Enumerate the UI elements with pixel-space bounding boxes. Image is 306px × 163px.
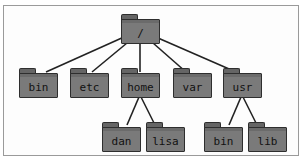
edge-usr-usr_lib: [243, 97, 257, 125]
folder-label: lisa: [152, 136, 179, 147]
edge-home-dan: [127, 97, 139, 125]
folder-label: var: [183, 82, 203, 93]
folder-label: lib: [258, 136, 278, 147]
folder-label: /: [137, 28, 144, 39]
folder-icon: etc: [70, 73, 109, 98]
folder-icon: dan: [102, 127, 141, 152]
folder-usr[interactable]: usr: [223, 68, 262, 98]
folder-label: bin: [29, 82, 49, 93]
folder-lisa[interactable]: lisa: [146, 122, 185, 152]
folder-usr_bin[interactable]: bin: [204, 122, 243, 152]
folder-label: dan: [112, 136, 132, 147]
folder-icon: var: [173, 73, 212, 98]
folder-icon: lib: [248, 127, 287, 152]
folder-label: home: [127, 82, 154, 93]
folder-root[interactable]: /: [121, 14, 160, 44]
folder-etc[interactable]: etc: [70, 68, 109, 98]
folder-var[interactable]: var: [173, 68, 212, 98]
folder-label: etc: [80, 82, 100, 93]
folder-label: bin: [214, 136, 234, 147]
folder-icon: bin: [19, 73, 58, 98]
edge-home-lisa: [141, 97, 155, 125]
folder-icon: usr: [223, 73, 262, 98]
folder-bin[interactable]: bin: [19, 68, 58, 98]
folder-icon: lisa: [146, 127, 185, 152]
folder-icon: /: [121, 19, 160, 44]
folder-icon: bin: [204, 127, 243, 152]
edge-root-usr: [158, 38, 236, 72]
folder-label: usr: [233, 82, 253, 93]
folder-home[interactable]: home: [121, 68, 160, 98]
folder-usr_lib[interactable]: lib: [248, 122, 287, 152]
edge-usr-usr_bin: [229, 97, 241, 125]
folder-dan[interactable]: dan: [102, 122, 141, 152]
folder-icon: home: [121, 73, 160, 98]
